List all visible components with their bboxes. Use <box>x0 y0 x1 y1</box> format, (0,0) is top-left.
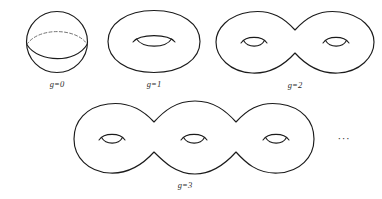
continuation-ellipsis: ··· <box>338 132 351 144</box>
sphere-equator-back-dashed <box>27 32 87 45</box>
surface-genus-2: g=2 <box>216 11 374 90</box>
sphere-equator-front <box>27 44 87 58</box>
surface-genus-0: g=0 <box>27 12 88 90</box>
genus-1-label: g=1 <box>147 79 162 89</box>
torus-hole-upper-arc <box>133 36 175 42</box>
genus-2-hole-1-lower-arc <box>244 41 265 47</box>
sphere-outline <box>27 12 88 73</box>
genus-3-label: g=3 <box>178 180 193 190</box>
genus-3-hole-2-lower-arc <box>184 138 205 144</box>
surface-genus-3: g=3 <box>74 101 314 190</box>
genus-0-label: g=0 <box>50 79 65 89</box>
genus-2-outline <box>216 11 374 73</box>
genus-2-hole-2-lower-arc <box>326 41 347 47</box>
genus-3-hole-3-lower-arc <box>266 138 287 144</box>
genus-surfaces-figure: g=0 g=1 g=2 g=3 ··· <box>0 0 382 199</box>
genus-3-outline <box>74 101 314 174</box>
torus-hole-lower-arc <box>137 39 172 46</box>
torus-outer-outline <box>108 11 200 73</box>
surface-genus-1: g=1 <box>108 11 200 90</box>
genus-3-hole-1-lower-arc <box>102 138 123 144</box>
genus-2-label: g=2 <box>288 80 303 90</box>
